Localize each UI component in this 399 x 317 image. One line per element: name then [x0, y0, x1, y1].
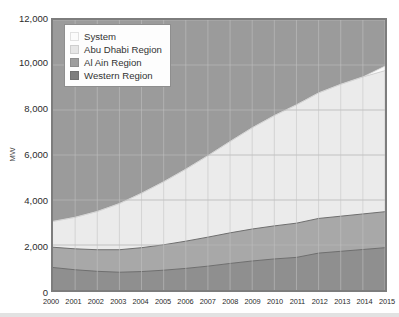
- stacked-area-chart: MW 0 2,000 4,000 6,000 8,000 10,000 12,0…: [0, 0, 399, 317]
- chart-legend: SystemAbu Dhabi RegionAl Ain RegionWeste…: [64, 24, 171, 87]
- x-tick-2013: 2013: [334, 297, 350, 306]
- legend-item-label: Western Region: [84, 70, 153, 81]
- x-tick-2009: 2009: [245, 297, 261, 306]
- page-edge-bottom: [0, 313, 399, 317]
- legend-item: Al Ain Region: [70, 56, 162, 68]
- x-tick-2001: 2001: [65, 297, 81, 306]
- legend-swatch-icon: [70, 45, 79, 54]
- x-tick-2004: 2004: [133, 297, 149, 306]
- x-tick-2010: 2010: [267, 297, 283, 306]
- x-tick-2015: 2015: [379, 297, 395, 306]
- legend-item: Abu Dhabi Region: [70, 43, 162, 55]
- x-tick-2003: 2003: [110, 297, 126, 306]
- x-tick-2005: 2005: [155, 297, 171, 306]
- legend-item: System: [70, 30, 162, 42]
- y-tick-6000: 6,000: [4, 149, 48, 160]
- x-tick-2014: 2014: [357, 297, 373, 306]
- legend-item-label: Abu Dhabi Region: [84, 44, 162, 55]
- y-tick-2000: 2,000: [4, 241, 48, 252]
- y-tick-4000: 4,000: [4, 195, 48, 206]
- legend-swatch-icon: [70, 71, 79, 80]
- y-tick-8000: 8,000: [4, 103, 48, 114]
- x-tick-2011: 2011: [290, 297, 306, 306]
- y-tick-12000: 12,000: [4, 13, 48, 24]
- y-tick-0: 0: [4, 287, 48, 298]
- legend-swatch-icon: [70, 32, 79, 41]
- x-tick-2006: 2006: [177, 297, 193, 306]
- y-tick-10000: 10,000: [4, 57, 48, 68]
- legend-item-label: Al Ain Region: [84, 57, 142, 68]
- legend-item: Western Region: [70, 69, 162, 81]
- x-tick-2002: 2002: [88, 297, 104, 306]
- x-tick-2012: 2012: [312, 297, 328, 306]
- x-tick-2000: 2000: [43, 297, 59, 306]
- legend-swatch-icon: [70, 58, 79, 67]
- x-tick-2008: 2008: [222, 297, 238, 306]
- y-axis-ticks: 0 2,000 4,000 6,000 8,000 10,000 12,000: [0, 0, 48, 317]
- legend-item-label: System: [84, 31, 116, 42]
- x-tick-2007: 2007: [200, 297, 216, 306]
